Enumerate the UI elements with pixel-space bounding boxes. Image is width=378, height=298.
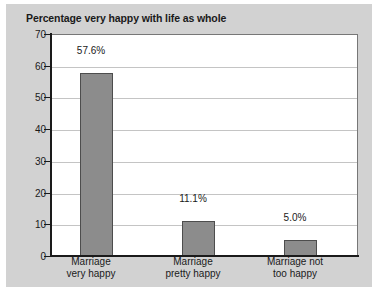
- y-axis-line: [50, 33, 52, 257]
- plot-area: [51, 34, 358, 256]
- y-tick-mark-50: [44, 97, 50, 98]
- x-tick-label-line-2: very happy: [67, 268, 116, 280]
- bar-marriage-pretty-happy[interactable]: [182, 221, 215, 256]
- y-tick-mark-10: [44, 224, 50, 225]
- chart-title: Percentage very happy with life as whole: [26, 12, 226, 24]
- y-tick-label-60: 60: [12, 60, 46, 71]
- x-tick-label-line-1: Marriage not: [267, 256, 323, 268]
- y-tick-mark-40: [44, 129, 50, 130]
- x-tick-label-line-2: pretty happy: [165, 268, 220, 280]
- data-label-marriage-very-happy: 57.6%: [77, 45, 105, 56]
- y-tick-label-40: 40: [12, 124, 46, 135]
- y-tick-label-30: 30: [12, 155, 46, 166]
- y-tick-label-50: 50: [12, 92, 46, 103]
- chart-panel: Percentage very happy with life as whole…: [6, 4, 372, 287]
- bar-marriage-very-happy[interactable]: [80, 73, 113, 256]
- bar-marriage-not-too-happy[interactable]: [284, 240, 317, 256]
- data-label-marriage-not-too-happy: 5.0%: [284, 212, 307, 223]
- gridline-60: [51, 67, 357, 68]
- x-tick-label-marriage-pretty-happy: Marriage pretty happy: [165, 256, 220, 280]
- y-tick-mark-20: [44, 193, 50, 194]
- y-tick-label-0: 0: [12, 251, 46, 262]
- x-tick-label-line-1: Marriage: [165, 256, 220, 268]
- x-tick-label-line-1: Marriage: [67, 256, 116, 268]
- y-tick-mark-0: [44, 256, 50, 257]
- x-tick-label-marriage-very-happy: Marriage very happy: [67, 256, 116, 280]
- data-label-marriage-pretty-happy: 11.1%: [179, 193, 207, 204]
- y-tick-mark-30: [44, 161, 50, 162]
- x-tick-label-line-2: too happy: [267, 268, 323, 280]
- y-tick-label-10: 10: [12, 219, 46, 230]
- y-tick-mark-60: [44, 66, 50, 67]
- y-tick-label-20: 20: [12, 187, 46, 198]
- y-tick-label-70: 70: [12, 29, 46, 40]
- y-tick-mark-70: [44, 34, 50, 35]
- y-axis-ticks: 70 60 50 40 30 20 10 0: [6, 34, 46, 256]
- x-tick-label-marriage-not-too-happy: Marriage not too happy: [267, 256, 323, 280]
- chart-figure: Percentage very happy with life as whole…: [0, 0, 378, 298]
